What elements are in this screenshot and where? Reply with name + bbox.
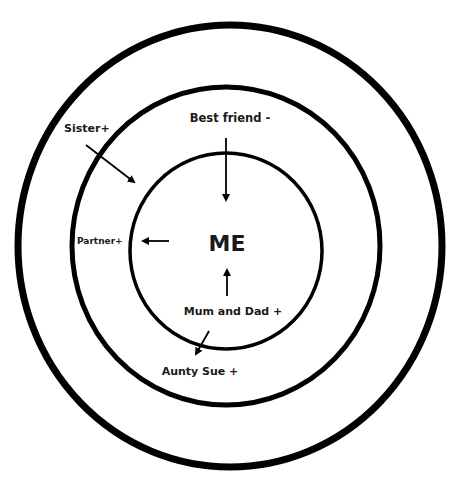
label-best-friend: Best friend - bbox=[190, 111, 271, 125]
relationship-circles-diagram: ME Best friend - Sister+ Partner+ Mum an… bbox=[0, 0, 460, 478]
label-mum-and-dad: Mum and Dad + bbox=[184, 305, 283, 318]
label-sister: Sister+ bbox=[64, 122, 110, 135]
label-partner: Partner+ bbox=[77, 236, 123, 246]
center-label-me: ME bbox=[209, 231, 246, 256]
arrow-aunty-sue bbox=[196, 331, 209, 354]
label-aunty-sue: Aunty Sue + bbox=[162, 365, 239, 378]
